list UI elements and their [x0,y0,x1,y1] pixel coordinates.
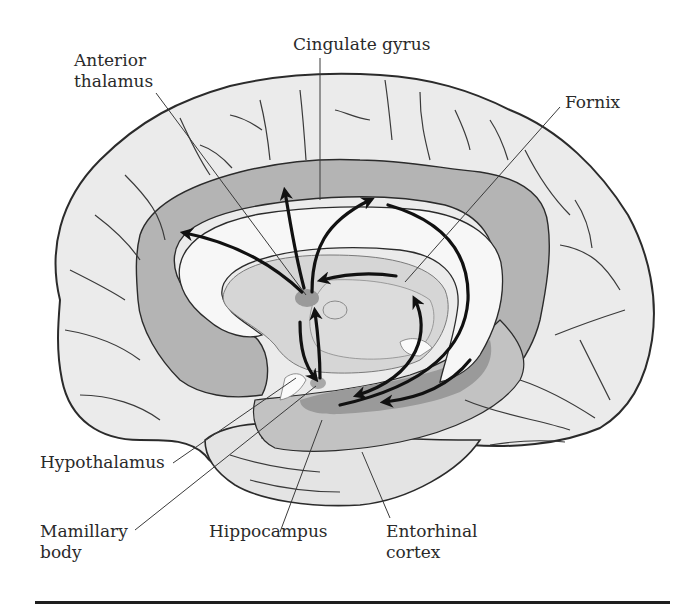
label-line: Hippocampus [209,521,328,541]
bottom-rule-divider [35,601,670,604]
label-line: thalamus [74,71,153,92]
label-line: Fornix [565,92,620,112]
label-line: cortex [386,542,477,563]
label-mamillary-body: Mamillary body [40,521,128,563]
label-entorhinal-cortex: Entorhinal cortex [386,521,477,563]
label-line: Cingulate gyrus [293,34,430,54]
label-line: Entorhinal [386,521,477,542]
label-anterior-thalamus: Anterior thalamus [74,50,153,92]
label-line: Mamillary [40,521,128,542]
limbic-circuit-diagram: Anterior thalamus Cingulate gyrus Fornix… [0,0,689,610]
label-line: body [40,542,128,563]
mamillary-body-nucleus [310,377,326,389]
label-hypothalamus: Hypothalamus [40,452,165,473]
label-cingulate-gyrus: Cingulate gyrus [293,34,430,55]
label-line: Anterior [74,50,153,71]
label-fornix: Fornix [565,92,620,113]
label-line: Hypothalamus [40,452,165,472]
anterior-thalamus-nucleus [295,289,319,307]
label-hippocampus: Hippocampus [209,521,328,542]
